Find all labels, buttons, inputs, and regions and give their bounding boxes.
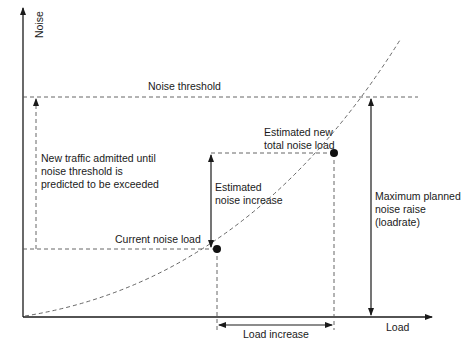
estimated-new-total-label: Estimated new total noise load [264,126,335,152]
load-increase-label: Load increase [243,328,309,341]
estimated-increase-label: Estimated noise increase [215,181,283,207]
y-axis-label: Noise [33,11,45,38]
x-axis-label: Load [386,321,409,334]
current-noise-point [213,245,221,253]
noise-threshold-label: Noise threshold [148,80,221,93]
max-planned-label: Maximum planned noise raise (loadrate) [375,190,461,229]
current-noise-label: Current noise load [115,233,201,246]
new-traffic-label: New traffic admitted until noise thresho… [41,152,159,191]
